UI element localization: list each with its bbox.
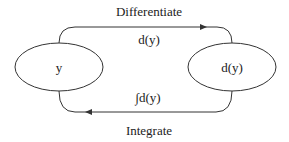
- node-dy-label: d(y): [221, 60, 243, 75]
- arrowhead-left-icon: [85, 109, 92, 115]
- edge-differentiate-sublabel: d(y): [138, 32, 160, 47]
- edge-integrate-sublabel: ∫d(y): [134, 90, 160, 106]
- node-y: y: [15, 43, 103, 91]
- edge-integrate-label: Integrate: [126, 123, 172, 138]
- edge-differentiate-label: Differentiate: [116, 4, 182, 19]
- node-dy: d(y): [188, 43, 276, 91]
- diagram-canvas: y d(y) Differentiate d(y) ∫d(y) Integrat…: [0, 0, 289, 142]
- edge-integrate: ∫d(y) Integrate: [59, 90, 232, 138]
- edge-differentiate: Differentiate d(y): [59, 4, 232, 47]
- arrowhead-right-icon: [200, 24, 207, 30]
- node-y-label: y: [56, 60, 63, 75]
